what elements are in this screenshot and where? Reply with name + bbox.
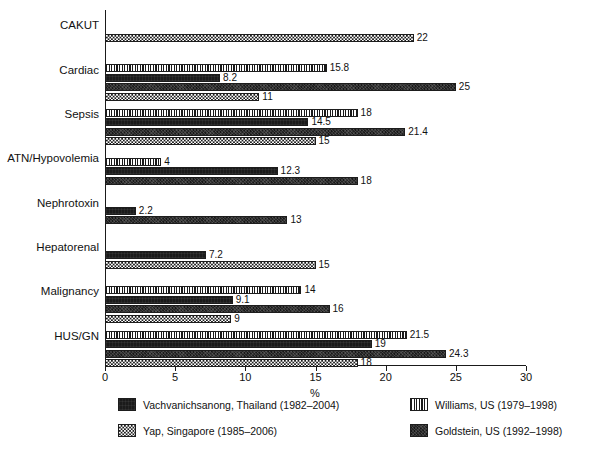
bar bbox=[105, 251, 206, 259]
bar-value-label: 18 bbox=[361, 108, 372, 118]
x-tick-label: 30 bbox=[520, 371, 532, 383]
category-label-malignancy: Malignancy bbox=[0, 285, 99, 297]
bar-value-label: 7.2 bbox=[209, 250, 223, 260]
bar-value-label: 9.1 bbox=[236, 295, 250, 305]
bar-value-label: 16 bbox=[333, 304, 344, 314]
chart-legend: Vachvanichsanong, Thailand (1982–2004)Ya… bbox=[118, 398, 598, 450]
bar bbox=[105, 286, 301, 294]
bar-chart: CAKUTCardiacSepsisATN/HypovolemiaNephrot… bbox=[0, 0, 610, 456]
bar bbox=[105, 74, 220, 82]
bar-value-label: 18 bbox=[361, 176, 372, 186]
x-tick-label: 5 bbox=[172, 371, 178, 383]
bar bbox=[105, 177, 358, 185]
legend-swatch-icon bbox=[118, 398, 136, 411]
bar-value-label: 14.5 bbox=[311, 117, 330, 127]
bar bbox=[105, 331, 407, 339]
bar-value-label: 24.3 bbox=[449, 349, 468, 359]
legend-item[interactable]: Williams, US (1979–1998) bbox=[410, 398, 557, 411]
x-tick-label: 20 bbox=[380, 371, 392, 383]
category-label-cakut: CAKUT bbox=[0, 19, 99, 31]
bar bbox=[105, 167, 278, 175]
x-tick-label: 15 bbox=[309, 371, 321, 383]
bar bbox=[105, 93, 259, 101]
category-label-nephrotoxin: Nephrotoxin bbox=[0, 197, 99, 209]
bar bbox=[105, 83, 456, 91]
bar bbox=[105, 340, 372, 348]
legend-item[interactable]: Yap, Singapore (1985–2006) bbox=[118, 424, 277, 437]
bar bbox=[105, 118, 308, 126]
bar-value-label: 11 bbox=[262, 92, 272, 102]
bar bbox=[105, 64, 327, 72]
bar bbox=[105, 158, 161, 166]
category-label-cardiac: Cardiac bbox=[0, 64, 99, 76]
bar bbox=[105, 137, 316, 145]
bar bbox=[105, 359, 358, 367]
bar-value-label: 12.3 bbox=[281, 166, 300, 176]
bar bbox=[105, 305, 330, 313]
bar-value-label: 4 bbox=[164, 157, 170, 167]
bar-value-label: 9 bbox=[234, 314, 240, 324]
bar-value-label: 13 bbox=[290, 215, 301, 225]
bar-value-label: 21.4 bbox=[408, 127, 427, 137]
bar bbox=[105, 350, 446, 358]
bar-value-label: 15 bbox=[319, 260, 330, 270]
bar bbox=[105, 128, 405, 136]
bar-value-label: 8.2 bbox=[223, 73, 237, 83]
bar bbox=[105, 296, 233, 304]
legend-item[interactable]: Vachvanichsanong, Thailand (1982–2004) bbox=[118, 398, 339, 411]
bar-value-label: 25 bbox=[459, 82, 470, 92]
category-label-sepsis: Sepsis bbox=[0, 108, 99, 120]
category-label-atn-hypovolemia: ATN/Hypovolemia bbox=[0, 152, 99, 164]
bar-value-label: 18 bbox=[361, 358, 372, 368]
bar bbox=[105, 261, 316, 269]
bar-value-label: 22 bbox=[417, 33, 428, 43]
bar-value-label: 19 bbox=[375, 339, 386, 349]
x-tick-label: 0 bbox=[102, 371, 108, 383]
x-tick-label: 10 bbox=[239, 371, 251, 383]
bar bbox=[105, 315, 231, 323]
bar bbox=[105, 207, 136, 215]
legend-label: Yap, Singapore (1985–2006) bbox=[143, 425, 277, 437]
x-tick-label: 25 bbox=[450, 371, 462, 383]
legend-label: Goldstein, US (1992–1998) bbox=[435, 425, 562, 437]
bar-value-label: 14 bbox=[304, 285, 315, 295]
legend-swatch-icon bbox=[118, 424, 136, 437]
legend-swatch-icon bbox=[410, 398, 428, 411]
category-label-hepatorenal: Hepatorenal bbox=[0, 241, 99, 253]
bar-value-label: 2.2 bbox=[139, 206, 153, 216]
bar-value-label: 15.8 bbox=[330, 63, 349, 73]
legend-swatch-icon bbox=[410, 424, 428, 437]
legend-label: Vachvanichsanong, Thailand (1982–2004) bbox=[143, 399, 339, 411]
bar-value-label: 15 bbox=[319, 136, 330, 146]
bar bbox=[105, 216, 287, 224]
legend-item[interactable]: Goldstein, US (1992–1998) bbox=[410, 424, 562, 437]
legend-label: Williams, US (1979–1998) bbox=[435, 399, 557, 411]
bar bbox=[105, 34, 414, 42]
category-label-hus-gn: HUS/GN bbox=[0, 330, 99, 342]
bar-value-label: 21.5 bbox=[410, 330, 429, 340]
